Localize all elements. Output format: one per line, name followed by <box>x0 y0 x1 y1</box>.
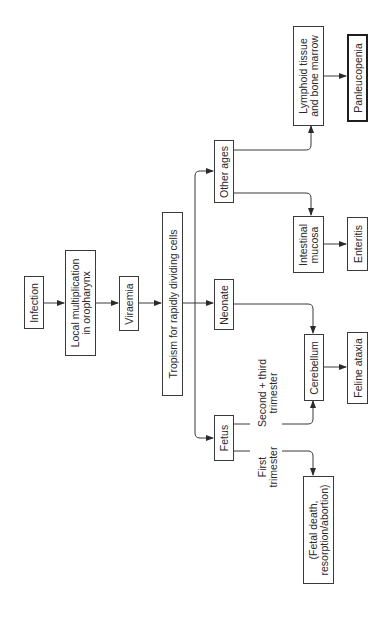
edge-label-second-third-trimester: Second + third trimester <box>255 355 281 431</box>
node-local-multiplication: Local multiplication in oropharynx <box>65 250 96 356</box>
node-panleucopenia: Panleucopenia <box>347 34 368 122</box>
node-label: Lymphoid tissue <box>298 35 309 117</box>
node-other-ages: Other ages <box>214 140 234 203</box>
node-fetus: Fetus <box>214 415 234 461</box>
edge-label: trimester <box>268 359 279 427</box>
node-intestinal-mucosa: Intestinal mucosa <box>293 216 324 273</box>
edge-label: trimester <box>268 447 279 488</box>
node-label: Intestinal <box>298 223 309 265</box>
node-label: in oropharynx <box>81 259 92 348</box>
node-label: mucosa <box>309 223 320 265</box>
node-label: Enteritis <box>352 225 363 263</box>
node-fetal-death: (Fetal death, resorption/abortion) <box>303 476 334 584</box>
flow-diagram: Infection Local multiplication in oropha… <box>0 0 384 634</box>
node-label: resorption/abortion) <box>319 484 330 575</box>
node-label: Viraemia <box>124 283 135 324</box>
node-tropism: Tropism for rapidly dividing cells <box>162 212 183 396</box>
node-label: (Fetal death, <box>308 484 319 575</box>
node-label: Panleucopenia <box>352 43 363 112</box>
node-label: Infection <box>29 283 40 323</box>
node-cerebellum: Cerebellum <box>304 334 324 401</box>
node-label: Feline ataxia <box>352 338 363 398</box>
edge-label-first-trimester: First trimester <box>255 443 281 491</box>
node-viraemia: Viraemia <box>119 276 139 331</box>
node-feline-ataxia: Feline ataxia <box>347 332 368 404</box>
node-lymphoid: Lymphoid tissue and bone marrow <box>293 26 324 126</box>
node-label: and bone marrow <box>309 35 320 117</box>
node-label: Local multiplication <box>70 259 81 348</box>
node-label: Neonate <box>219 285 230 325</box>
node-label: Cerebellum <box>309 341 320 395</box>
node-label: Fetus <box>219 425 230 451</box>
node-neonate: Neonate <box>214 279 234 330</box>
node-enteritis: Enteritis <box>347 217 368 271</box>
node-infection: Infection <box>24 276 44 329</box>
node-label: Tropism for rapidly dividing cells <box>167 230 178 379</box>
node-label: Other ages <box>219 146 230 198</box>
